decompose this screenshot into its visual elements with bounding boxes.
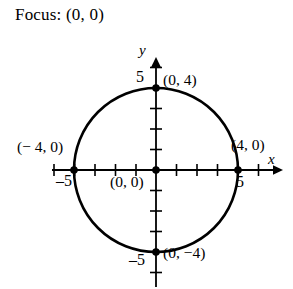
y-tick-label-neg5: –5 <box>129 252 145 268</box>
y-tick-label-5: 5 <box>136 69 144 85</box>
x-axis <box>52 165 283 175</box>
x-axis-label: x <box>268 152 275 167</box>
point-origin <box>152 166 160 174</box>
x-tick-label-neg5: –5 <box>56 173 72 189</box>
graph-figure: Focus: (0, 0) <box>0 0 293 289</box>
label-point-0-neg4: (0, −4) <box>163 245 205 261</box>
label-point-origin: (0, 0) <box>110 174 144 190</box>
x-tick-label-5: 5 <box>236 174 244 190</box>
y-axis-label: y <box>139 43 146 58</box>
label-point-neg4-0: (− 4, 0) <box>17 139 63 155</box>
point-0-4 <box>152 84 160 92</box>
point-0-neg4 <box>152 248 160 256</box>
label-point-4-0: (4, 0) <box>231 137 265 153</box>
y-axis-arrowhead <box>151 57 161 67</box>
label-point-0-4: (0, 4) <box>163 72 197 88</box>
